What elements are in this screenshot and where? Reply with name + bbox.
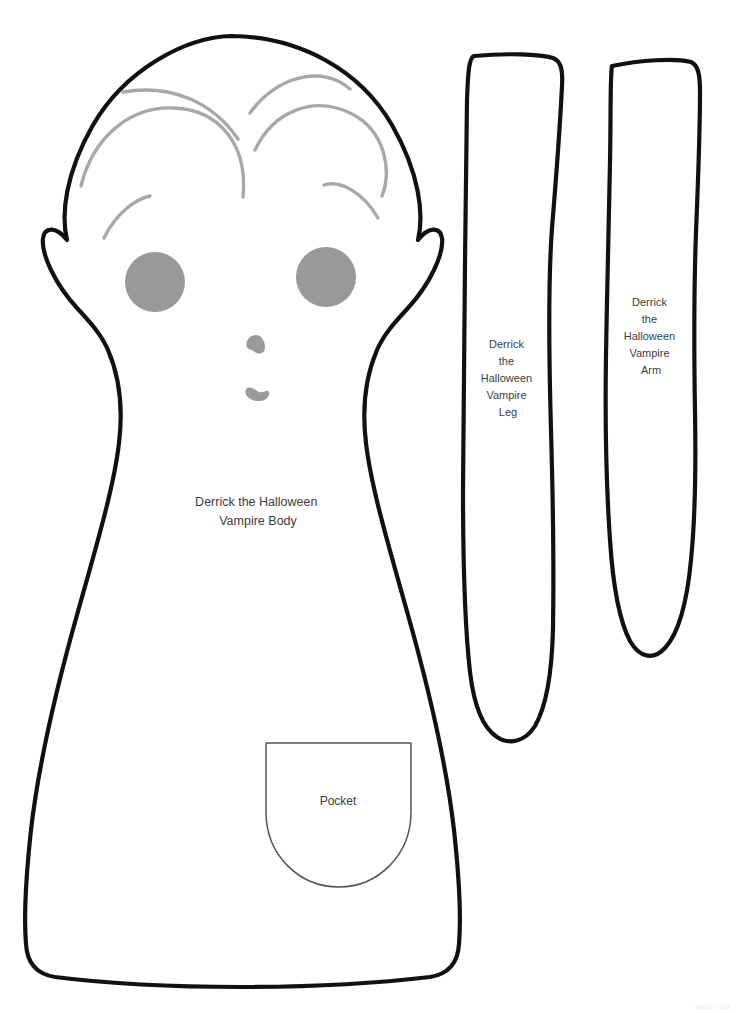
left-eye-icon (125, 252, 185, 312)
right-eye-icon (296, 247, 356, 307)
pattern-piece-leg: Derrick the Halloween Vampire Leg (463, 54, 562, 741)
pattern-sheet: Derrick the Halloween Vampire Body Pocke… (0, 0, 737, 1013)
pattern-piece-body: Derrick the Halloween Vampire Body Pocke… (25, 36, 460, 987)
sewing-pattern-diagram: Derrick the Halloween Vampire Body Pocke… (0, 0, 737, 1013)
watermark: watermark (695, 1003, 731, 1010)
pattern-piece-arm: Derrick the Halloween Vampire Arm (606, 60, 700, 656)
pocket-piece-label: Pocket (320, 794, 357, 808)
